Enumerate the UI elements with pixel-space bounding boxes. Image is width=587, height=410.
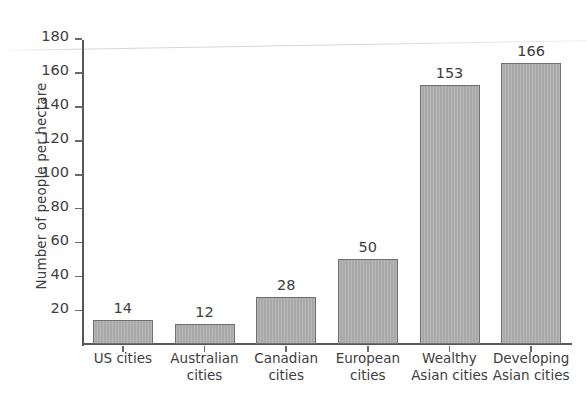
plot-area: 2040608010012014016018014US cities12Aust… <box>82 40 572 345</box>
y-axis-tick: 100 <box>75 174 82 176</box>
category-label-line1: European <box>336 350 400 366</box>
category-label-line2: Asian cities <box>490 367 572 384</box>
x-axis-category-label: Europeancities <box>327 350 409 384</box>
bar-value-label: 12 <box>195 304 213 320</box>
y-axis-line <box>82 40 84 346</box>
y-axis-tick-label: 140 <box>41 96 69 112</box>
bar-value-label: 166 <box>517 43 545 59</box>
y-axis-tick-label: 160 <box>41 62 69 78</box>
x-axis-category-label: Australiancities <box>164 350 246 384</box>
y-axis-tick-label: 120 <box>41 130 69 146</box>
y-axis-tick: 120 <box>75 140 82 142</box>
y-axis-tick: 180 <box>75 38 82 40</box>
y-axis-tick: 140 <box>75 106 82 108</box>
y-axis-tick: 160 <box>75 72 82 74</box>
y-axis-tick-label: 40 <box>51 266 69 282</box>
y-axis-tick: 20 <box>75 310 82 312</box>
y-axis-tick-label: 100 <box>41 164 69 180</box>
bar: 153 <box>420 85 480 344</box>
bar: 14 <box>93 320 153 344</box>
category-label-line2: Asian cities <box>409 367 491 384</box>
category-label-line2: cities <box>245 367 327 384</box>
y-axis-tick: 80 <box>75 208 82 210</box>
category-label-line2: cities <box>327 367 409 384</box>
y-axis-title: Number of people per hectare <box>33 41 49 331</box>
category-label-line1: US cities <box>94 350 152 366</box>
bar-value-label: 153 <box>436 65 464 81</box>
x-axis-category-label: Canadiancities <box>245 350 327 384</box>
y-axis-tick: 60 <box>75 242 82 244</box>
category-label-line1: Wealthy <box>422 350 477 366</box>
bar: 12 <box>175 324 235 344</box>
category-label-line1: Australian <box>170 350 238 366</box>
category-label-line1: Canadian <box>254 350 318 366</box>
bar-value-label: 28 <box>277 277 295 293</box>
category-label-line2: cities <box>164 367 246 384</box>
y-axis-tick-label: 60 <box>51 232 69 248</box>
x-axis-line <box>82 343 572 345</box>
bar: 50 <box>338 259 398 344</box>
bar: 166 <box>501 63 561 344</box>
x-axis-category-label: US cities <box>82 350 164 367</box>
category-label-line1: Developing <box>493 350 569 366</box>
y-axis-tick-label: 180 <box>41 28 69 44</box>
x-axis-category-label: DevelopingAsian cities <box>490 350 572 384</box>
bar: 28 <box>256 297 316 344</box>
y-axis-tick: 40 <box>75 276 82 278</box>
y-axis-tick-label: 80 <box>51 198 69 214</box>
bar-value-label: 50 <box>359 239 377 255</box>
x-axis-category-label: WealthyAsian cities <box>409 350 491 384</box>
bar-chart: Number of people per hectare 20406080100… <box>0 0 587 410</box>
y-axis-tick-label: 20 <box>51 300 69 316</box>
bar-value-label: 14 <box>114 300 132 316</box>
